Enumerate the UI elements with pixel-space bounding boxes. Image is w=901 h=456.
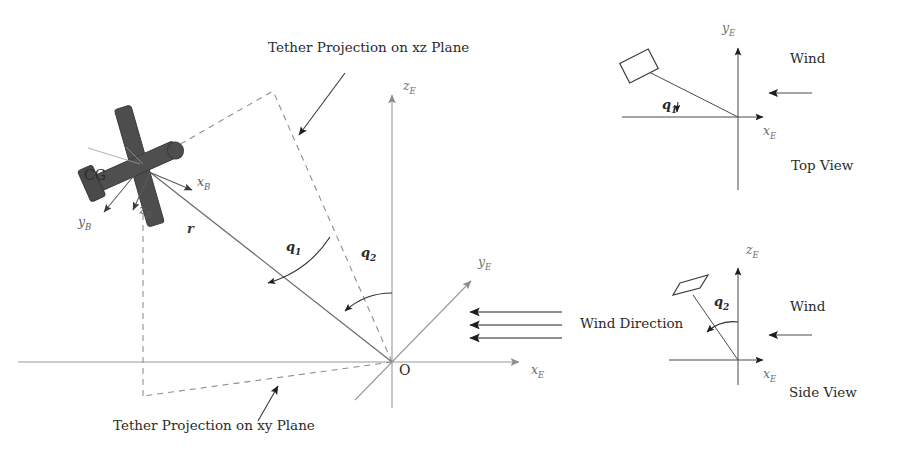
topview-tether-line bbox=[649, 72, 738, 117]
sideview-angle-arc-q2 bbox=[707, 322, 738, 332]
tether-projection-xz-line bbox=[273, 91, 392, 362]
sideview-kite-plate bbox=[673, 275, 708, 295]
main-view-group bbox=[18, 73, 562, 421]
side-view-group bbox=[669, 268, 812, 385]
leader-line-xy-annotation bbox=[258, 386, 278, 421]
topview-kite-box bbox=[620, 49, 659, 83]
diagram-canvas bbox=[0, 0, 901, 456]
tether-line-r bbox=[142, 166, 392, 362]
main-axis-y-earth-neg bbox=[355, 362, 392, 400]
main-axis-y-earth bbox=[392, 281, 471, 362]
angle-arc-q1 bbox=[268, 237, 330, 283]
body-axis-x-arrow bbox=[149, 172, 192, 190]
figure-root: Tether Projection on xz Plane Tether Pro… bbox=[0, 0, 901, 456]
top-view-group bbox=[620, 48, 812, 190]
topview-angle-arc-q1 bbox=[677, 102, 678, 112]
sideview-tether-line bbox=[693, 295, 738, 360]
kite-body bbox=[58, 89, 210, 248]
leader-line-xz-annotation bbox=[299, 73, 345, 135]
tether-projection-xy-line bbox=[143, 362, 392, 396]
